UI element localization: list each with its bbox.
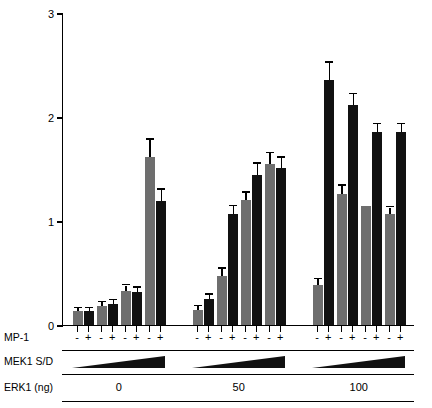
divider-1 — [62, 350, 414, 351]
error-bar — [401, 124, 403, 131]
mek1-wedge — [192, 355, 285, 369]
error-bar-cap — [266, 152, 274, 154]
mp1-sign: - — [267, 331, 271, 343]
error-bar — [89, 308, 91, 311]
error-bar-cap — [85, 307, 93, 309]
error-bar-cap — [133, 286, 141, 288]
error-bar — [341, 186, 343, 194]
error-bar-cap — [146, 138, 154, 140]
mp1-sign: + — [229, 331, 235, 343]
bar — [276, 168, 286, 325]
error-bar — [125, 286, 127, 291]
erk1-group-value: 50 — [233, 381, 245, 393]
bar-series — [63, 14, 414, 325]
bar — [145, 157, 155, 325]
mek1-wedge — [72, 355, 165, 369]
bar — [396, 132, 406, 325]
error-bar-cap — [218, 267, 226, 269]
bar — [84, 311, 94, 325]
mek1-gradient-wedges — [62, 355, 414, 371]
bar — [348, 105, 358, 325]
mp1-sign: + — [349, 331, 355, 343]
chart-figure: Luciferase Activity (x106 Relative light… — [0, 0, 432, 408]
mp1-sign: - — [219, 331, 223, 343]
bar — [121, 291, 131, 325]
mp1-sign: + — [373, 331, 379, 343]
error-bar — [149, 140, 151, 157]
error-bar-cap — [109, 299, 117, 301]
error-bar — [389, 208, 391, 214]
bar — [361, 206, 371, 325]
error-bar — [329, 63, 331, 80]
mp1-sign: + — [397, 331, 403, 343]
bar — [73, 311, 83, 325]
error-bar-cap — [349, 93, 357, 95]
bar — [313, 285, 323, 325]
error-bar-cap — [253, 162, 261, 164]
bar — [337, 194, 347, 325]
plot-area: 0123 — [62, 14, 414, 326]
error-bar-cap — [74, 307, 82, 309]
mp1-sign: + — [205, 331, 211, 343]
y-tick-label: 0 — [48, 320, 54, 332]
erk1-group-value: 100 — [350, 381, 368, 393]
error-bar — [209, 295, 211, 299]
error-bar — [257, 164, 259, 175]
bar — [193, 310, 203, 325]
mp1-sign: - — [315, 331, 319, 343]
error-bar-cap — [194, 305, 202, 307]
error-bar-cap — [314, 278, 322, 280]
mp1-sign: + — [85, 331, 91, 343]
bar — [108, 304, 118, 325]
mp1-sign: + — [133, 331, 139, 343]
mek1-wedge — [312, 355, 405, 369]
bar — [132, 292, 142, 325]
mp1-sign: + — [277, 331, 283, 343]
error-bar — [221, 269, 223, 276]
error-bar-cap — [397, 123, 405, 125]
mp1-sign: - — [243, 331, 247, 343]
bar — [385, 214, 395, 325]
error-bar-cap — [242, 191, 250, 193]
error-bar-cap — [98, 301, 106, 303]
mp1-sign: + — [253, 331, 259, 343]
mp1-sign: + — [109, 331, 115, 343]
mp1-sign: - — [99, 331, 103, 343]
error-bar-cap — [229, 205, 237, 207]
error-bar — [113, 300, 115, 304]
bar — [217, 276, 227, 325]
error-bar — [353, 94, 355, 104]
error-bar-cap — [386, 206, 394, 208]
erk1-group-values: 050100 — [62, 381, 414, 397]
mp1-sign: - — [363, 331, 367, 343]
bar — [204, 299, 214, 325]
error-bar — [101, 302, 103, 306]
mp1-sign: - — [195, 331, 199, 343]
error-bar-cap — [338, 184, 346, 186]
error-bar-cap — [277, 156, 285, 158]
row-label-erk1: ERK1 (ng) — [4, 381, 53, 393]
bar — [241, 200, 251, 325]
y-tick-label: 2 — [48, 112, 54, 124]
row-label-mek1: MEK1 S/D — [4, 355, 53, 367]
mp1-sign: - — [147, 331, 151, 343]
mp1-sign: - — [75, 331, 79, 343]
divider-3 — [62, 401, 414, 402]
divider-2 — [62, 374, 414, 375]
error-bar — [281, 158, 283, 168]
mp1-sign-row: -+-+-+-+-+-+-+-+-+-+-+-+ — [62, 331, 414, 347]
row-label-mp1: MP-1 — [4, 331, 29, 343]
mp1-sign: + — [325, 331, 331, 343]
bar — [228, 214, 238, 325]
error-bar — [137, 288, 139, 292]
y-tick-label: 1 — [48, 216, 54, 228]
mp1-sign: - — [387, 331, 391, 343]
bar — [265, 164, 275, 325]
mp1-sign: + — [157, 331, 163, 343]
bar — [324, 80, 334, 325]
y-tick-label: 3 — [48, 8, 54, 20]
error-bar — [377, 124, 379, 131]
y-axis-label: Luciferase Activity (x106 Relative light… — [2, 0, 16, 30]
error-bar-cap — [157, 188, 165, 190]
erk1-group-value: 0 — [116, 381, 122, 393]
